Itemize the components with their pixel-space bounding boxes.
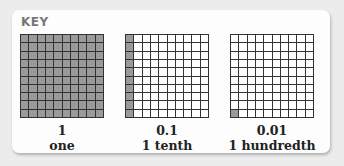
grid-cell [306,85,313,92]
grid-cell [201,43,208,50]
label-one-tenth: 0.1 1 tenth [107,123,227,153]
grid-cell [297,85,304,92]
grid-cell [29,85,36,92]
grid-cell [71,77,78,84]
grid-cell [239,93,246,100]
grid-cell [239,52,246,59]
grid-cell [231,85,238,92]
grid-cell [273,110,280,117]
grid-cell [289,60,296,67]
grid-cell [46,110,53,117]
grid-cell [281,110,288,117]
grid-cell [176,35,183,42]
grid-cell [38,35,45,42]
grid-cell [143,77,150,84]
grid-cell [273,43,280,50]
grid-cell [134,35,141,42]
value-one-tenth: 0.1 [107,123,227,138]
grid-cell [21,85,28,92]
grid-cell [71,101,78,108]
grid-cell [231,35,238,42]
grid-cell [46,43,53,50]
grid-cell [151,85,158,92]
grid-cell [264,52,271,59]
grid-cell [87,85,94,92]
grid-cell [79,101,86,108]
grid-cell [248,43,255,50]
grid-cell [46,85,53,92]
grid-cell [134,43,141,50]
grid-cell [143,60,150,67]
grid-cell [256,52,263,59]
grid-cell [297,68,304,75]
grid-cell [159,52,166,59]
grid-cell [54,43,61,50]
value-one: 1 [2,123,122,138]
grid-cell [168,93,175,100]
grid-cell [248,68,255,75]
grid-cell [264,101,271,108]
value-one-hundredth: 0.01 [212,123,332,138]
grid-cell [192,43,199,50]
grid-cell [71,93,78,100]
grid-cell [54,110,61,117]
grid-cell [38,110,45,117]
grid-cell [38,43,45,50]
grid-cell [231,93,238,100]
grid-cell [21,68,28,75]
grid-cell [289,77,296,84]
grid-cell [184,35,191,42]
name-one-tenth: 1 tenth [107,138,227,153]
grid-cell [159,43,166,50]
grid-cell [256,110,263,117]
grid-cell [256,101,263,108]
grid-cell [201,68,208,75]
grid-cell [96,52,103,59]
grid-cell [192,93,199,100]
grid-cell [126,93,133,100]
grid-cell [306,101,313,108]
grid-cell [281,93,288,100]
grid-cell [281,68,288,75]
grid-cell [256,77,263,84]
grid-cell [273,77,280,84]
grid-cell [248,52,255,59]
grid-cell [126,77,133,84]
grid-cell [54,60,61,67]
grid-cell [126,60,133,67]
grid-cell [281,101,288,108]
grid-cell [134,101,141,108]
grid-cell [306,60,313,67]
grid-cell [71,35,78,42]
grid-cell [184,77,191,84]
grid-cell [306,52,313,59]
grid-cell [184,52,191,59]
grid-cell [134,52,141,59]
grid-cell [134,93,141,100]
grid-cell [248,35,255,42]
grid-cell [273,93,280,100]
grid-cell [21,93,28,100]
grid-cell [297,101,304,108]
grid-cell [248,77,255,84]
grid-cell [126,110,133,117]
grid-cell [96,77,103,84]
grid-cell [192,35,199,42]
grid-cell [21,101,28,108]
grid-cell [289,52,296,59]
grid-cell [159,101,166,108]
grid-cell [281,60,288,67]
grid-cell [264,93,271,100]
grid-cell [54,52,61,59]
grid-cell [273,52,280,59]
grid-cell [79,68,86,75]
key-title: KEY [21,15,49,29]
grid-cell [87,68,94,75]
grid-cell [273,101,280,108]
grid-cell [159,77,166,84]
grid-cell [29,60,36,67]
grid-cell [143,52,150,59]
grid-cell [151,77,158,84]
grid-cell [192,60,199,67]
grid-cell [192,101,199,108]
